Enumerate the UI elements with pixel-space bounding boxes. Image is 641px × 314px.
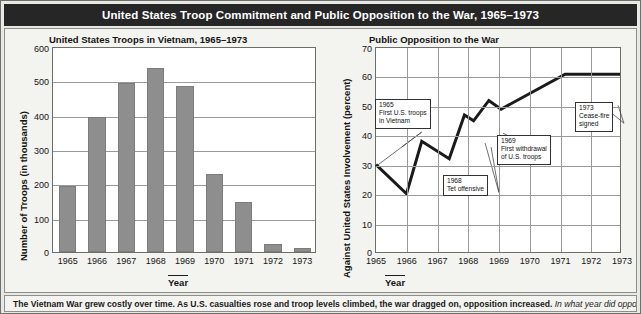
charts-panel: United States Troops in Vietnam, 1965–19… [4,28,637,293]
line-chart-panel: Public Opposition to the War Against Uni… [331,29,636,292]
annotation-1969: 1969 First withdrawal of U.S. troops [497,135,551,165]
annotation-1969-line1: 1969 [501,137,547,145]
line-chart-y-tick: 20 [362,190,372,200]
line-chart-vgridline [561,48,562,252]
line-chart-x-tick: 1965 [366,256,386,266]
figure-container: United States Troop Commitment and Publi… [0,0,641,314]
bar-1971 [235,202,253,252]
bar-chart-x-axis-label: Year [168,275,188,288]
bar-chart-x-tick: 1966 [87,256,107,266]
line-chart-x-tick: 1969 [489,256,509,266]
caption-lead: The Vietnam War grew costly over time. A… [13,299,552,309]
line-chart-x-tick: 1968 [458,256,478,266]
bar-1973 [294,248,312,252]
caption-question: In what year did opposition [555,299,637,309]
line-chart-gridline [376,166,620,167]
bar-chart-title: United States Troops in Vietnam, 1965–19… [49,34,247,45]
annotation-1968-line1: 1968 [447,177,484,185]
bar-chart-x-tick: 1970 [204,256,224,266]
bar-chart-y-tick: 300 [34,146,49,156]
line-chart-y-tick: 60 [362,72,372,82]
annotation-1969-line3: of U.S. troops [501,153,547,161]
annotation-1965: 1965 First U.S. troops in Vietnam [375,99,431,129]
bar-chart-y-tick: 500 [34,77,49,87]
line-chart-x-tick: 1971 [550,256,570,266]
annotation-1973-line3: signed [579,120,609,128]
bar-chart-y-tick: 100 [34,215,49,225]
bar-chart-x-tick: 1972 [263,256,283,266]
caption-strip: The Vietnam War grew costly over time. A… [4,295,637,312]
figure-header: United States Troop Commitment and Publi… [4,4,637,26]
line-chart-x-tick: 1966 [397,256,417,266]
bar-chart-y-axis-label: Number of Troops (in thousands) [18,111,29,261]
line-chart-x-tick: 1972 [581,256,601,266]
bar-1970 [206,174,224,252]
bar-1969 [176,86,194,252]
line-chart-y-tick: 10 [362,220,372,230]
bar-chart-y-tick: 200 [34,180,49,190]
bar-1965 [59,186,77,252]
line-chart-title: Public Opposition to the War [369,34,499,45]
bar-chart-y-tick: 0 [44,248,49,258]
annotation-leader-line [402,132,422,147]
annotation-1973-line1: 1973 [579,104,609,112]
line-chart-y-tick: 70 [362,44,372,54]
bar-chart-x-tick: 1967 [116,256,136,266]
line-chart-y-tick: 30 [362,161,372,171]
annotation-1968-line2: Tet offensive [447,185,484,193]
bar-chart-panel: United States Troops in Vietnam, 1965–19… [5,29,331,292]
bar-1967 [118,83,136,252]
bar-chart-x-tick: 1965 [58,256,78,266]
line-chart-y-tick: 40 [362,131,372,141]
annotation-1965-line1: 1965 [379,101,427,109]
line-chart-y-tick: 50 [362,102,372,112]
annotation-1965-line2: First U.S. troops [379,109,427,117]
annotation-1973-line2: Cease-fire [579,112,609,120]
line-chart-gridline [376,195,620,196]
line-chart-x-tick: 1970 [520,256,540,266]
bar-chart-x-tick: 1973 [292,256,312,266]
annotation-1973: 1973 Cease-fire signed [575,102,613,132]
bar-chart-y-tick: 400 [34,112,49,122]
bar-chart-plot-area: 0100200300400500600196519661967196819691… [52,47,316,253]
bar-chart-x-tick: 1971 [234,256,254,266]
bar-chart-x-tick: 1968 [146,256,166,266]
line-chart-x-tick: 1973 [612,256,632,266]
figure-title: United States Troop Commitment and Publi… [102,9,539,21]
line-chart-vgridline [468,48,469,252]
line-chart-vgridline [438,48,439,252]
annotation-1965-line3: in Vietnam [379,117,427,125]
line-chart-y-axis-label: Against United States Involvement (perce… [341,78,352,278]
bar-1966 [88,117,106,252]
annotation-1969-line2: First withdrawal [501,145,547,153]
caption-text: The Vietnam War grew costly over time. A… [13,299,637,309]
bar-1972 [264,244,282,252]
bar-1968 [147,68,165,252]
opposition-line [376,74,620,193]
line-chart-gridline [376,77,620,78]
bar-chart-x-tick: 1969 [175,256,195,266]
line-chart-vgridline [591,48,592,252]
line-chart-x-tick: 1967 [427,256,447,266]
bar-chart-y-tick: 600 [34,44,49,54]
bar-chart-gridline [53,82,315,83]
line-chart-vgridline [407,48,408,252]
line-chart-x-axis-label: Year [385,275,405,288]
line-chart-gridline [376,225,620,226]
annotation-1968: 1968 Tet offensive [443,175,488,196]
